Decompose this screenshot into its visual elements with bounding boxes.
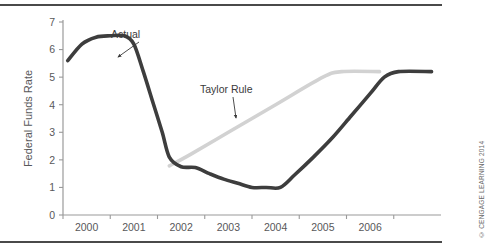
x-tick-label: 2005 bbox=[311, 221, 335, 233]
x-axis: 2000200120022003200420052006 bbox=[63, 215, 441, 233]
federal-funds-rate-line-chart: 01234567 2000200120022003200420052006 Ac… bbox=[0, 0, 496, 252]
y-axis: 01234567 bbox=[49, 16, 63, 221]
y-tick-label: 5 bbox=[49, 71, 55, 83]
x-tick-label: 2001 bbox=[122, 221, 146, 233]
x-tick-label: 2003 bbox=[217, 221, 241, 233]
annotation-label: Taylor Rule bbox=[200, 83, 253, 95]
y-tick-label: 3 bbox=[49, 126, 55, 138]
y-axis-title: Federal Funds Rate bbox=[22, 70, 34, 167]
y-tick-label: 4 bbox=[49, 99, 55, 111]
y-tick-label: 1 bbox=[49, 181, 55, 193]
annotation-arrow bbox=[233, 97, 236, 118]
figure-container: 01234567 2000200120022003200420052006 Ac… bbox=[0, 0, 496, 252]
annotation-label: Actual bbox=[111, 28, 140, 40]
series-line-actual bbox=[68, 35, 432, 188]
copyright-notice: © CENGAGE LEARNING 2014 bbox=[478, 128, 492, 238]
x-tick-label: 2002 bbox=[169, 221, 193, 233]
y-tick-label: 6 bbox=[49, 43, 55, 55]
x-tick-label: 2006 bbox=[358, 221, 382, 233]
y-tick-label: 0 bbox=[49, 209, 55, 221]
x-tick-label: 2000 bbox=[75, 221, 99, 233]
y-tick-label: 2 bbox=[49, 154, 55, 166]
x-tick-label: 2004 bbox=[264, 221, 288, 233]
y-axis-title-text: Federal Funds Rate bbox=[22, 70, 34, 167]
y-tick-label: 7 bbox=[49, 16, 55, 28]
chart-series bbox=[68, 35, 432, 188]
